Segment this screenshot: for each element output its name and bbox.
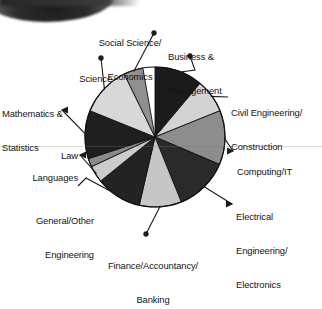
leader-line — [203, 186, 232, 204]
label-line: Computing/IT — [237, 166, 321, 177]
label-line: Engineering/ — [236, 245, 320, 256]
label-line: Mathematics & — [2, 108, 88, 119]
label-line: Engineering — [4, 249, 94, 260]
label-line: Statistics — [2, 142, 88, 153]
label-line: Banking — [88, 294, 218, 305]
slice-label-electrical-engineering: Electrical Engineering/ Electronics — [236, 188, 320, 309]
leader-arrowhead — [227, 201, 233, 206]
leader-dot — [144, 232, 148, 236]
label-line: Business & — [168, 51, 260, 62]
leader-line — [146, 206, 160, 234]
slice-label-finance-accountancy: Finance/Accountancy/ Banking — [88, 237, 218, 309]
label-line: Civil Engineering/ — [231, 107, 322, 118]
label-line: Electrical — [236, 211, 320, 222]
label-line: Social Science/ — [84, 37, 176, 48]
label-line: General/Other — [4, 215, 94, 226]
label-line: Science — [58, 73, 112, 84]
label-line: Finance/Accountancy/ — [88, 260, 218, 271]
label-line: Electronics — [236, 279, 320, 290]
slice-label-science: Science — [58, 50, 112, 107]
